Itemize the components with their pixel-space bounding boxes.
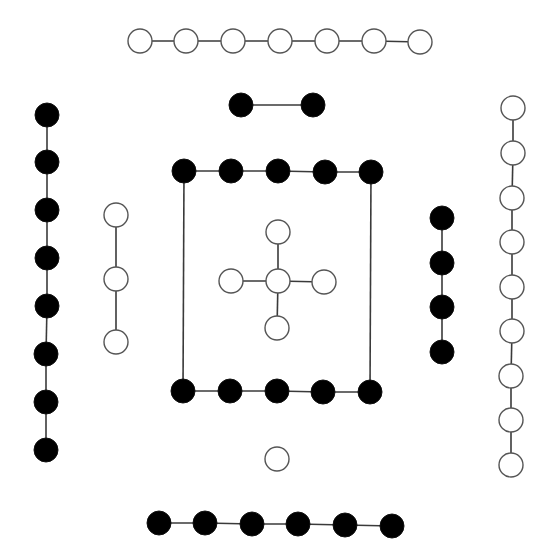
- white-node: [312, 270, 336, 294]
- black-node: [359, 160, 383, 184]
- square-right-side: [370, 172, 371, 392]
- square-left-side: [183, 171, 184, 391]
- left-white-chain-nodes: [104, 203, 128, 354]
- black-node: [219, 159, 243, 183]
- white-node: [501, 96, 525, 120]
- black-node: [172, 159, 196, 183]
- white-node: [104, 267, 128, 291]
- black-node: [147, 511, 171, 535]
- white-node: [315, 29, 339, 53]
- white-node: [500, 319, 524, 343]
- edge: [370, 172, 371, 392]
- white-node: [221, 29, 245, 53]
- black-node: [313, 160, 337, 184]
- white-node: [499, 453, 523, 477]
- black-node: [430, 206, 454, 230]
- white-node: [104, 330, 128, 354]
- white-node: [500, 186, 524, 210]
- black-node: [35, 198, 59, 222]
- black-node: [229, 93, 253, 117]
- top-white-chain-nodes: [128, 29, 432, 54]
- black-node: [34, 438, 58, 462]
- black-node: [265, 379, 289, 403]
- white-node: [501, 141, 525, 165]
- black-node: [35, 294, 59, 318]
- white-node: [104, 203, 128, 227]
- black-node: [266, 159, 290, 183]
- graph-diagram: [0, 0, 553, 560]
- white-node: [499, 408, 523, 432]
- edge: [183, 171, 184, 391]
- black-node: [430, 251, 454, 275]
- white-node: [219, 269, 243, 293]
- black-node: [430, 340, 454, 364]
- black-node: [35, 246, 59, 270]
- white-node: [265, 316, 289, 340]
- black-node: [218, 379, 242, 403]
- white-node: [499, 364, 523, 388]
- black-node: [240, 512, 264, 536]
- white-node: [174, 29, 198, 53]
- white-node: [500, 275, 524, 299]
- black-node: [380, 514, 404, 538]
- white-node: [268, 29, 292, 53]
- right-white-chain-nodes: [499, 96, 525, 477]
- white-node: [362, 29, 386, 53]
- white-node: [266, 220, 290, 244]
- black-node: [311, 380, 335, 404]
- black-node: [333, 513, 357, 537]
- white-node: [128, 29, 152, 53]
- black-node: [286, 512, 310, 536]
- black-node: [193, 511, 217, 535]
- black-node: [430, 295, 454, 319]
- white-node: [408, 30, 432, 54]
- white-node: [266, 269, 290, 293]
- black-node: [35, 150, 59, 174]
- white-node: [500, 230, 524, 254]
- black-node: [358, 380, 382, 404]
- black-node: [34, 342, 58, 366]
- black-node: [34, 390, 58, 414]
- black-node: [301, 93, 325, 117]
- black-node: [35, 103, 59, 127]
- isolated-white-node-nodes: [265, 447, 289, 471]
- cross-vertical-nodes: [265, 220, 290, 340]
- black-node: [171, 379, 195, 403]
- white-node: [265, 447, 289, 471]
